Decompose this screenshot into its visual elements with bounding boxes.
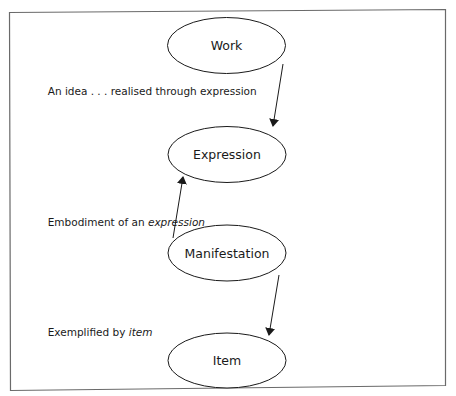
node-manifestation: Manifestation: [168, 225, 286, 281]
manifestation-label: Manifestation: [185, 246, 270, 261]
item-label: Item: [213, 353, 241, 368]
work-label: Work: [211, 38, 243, 53]
edge-label-embodiment: Embodiment of an expression: [31, 216, 215, 228]
edge-label-realised-plain: An idea . . . realised through expressio…: [48, 85, 257, 97]
edge-label-exemplified: Exemplified by item: [31, 326, 162, 338]
edge-label-exemplified-italic: item: [129, 326, 153, 338]
node-expression: Expression: [168, 127, 286, 183]
diagram-canvas: Work Expression Manifestation Item An id…: [0, 0, 456, 396]
arrow-manifestation-to-item: [269, 275, 279, 335]
arrow-work-to-expression: [273, 64, 283, 126]
arrow-manifestation-to-expression: [173, 177, 183, 238]
expression-label: Expression: [193, 147, 261, 162]
node-work: Work: [168, 18, 286, 74]
edge-label-embodiment-italic: expression: [148, 216, 205, 228]
node-item: Item: [168, 333, 286, 388]
edge-label-exemplified-plain: Exemplified by: [48, 326, 129, 338]
edge-label-realised-through: An idea . . . realised through expressio…: [31, 85, 267, 97]
edge-label-embodiment-plain: Embodiment of an: [48, 216, 148, 228]
